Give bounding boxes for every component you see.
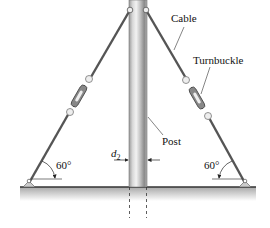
cable-label: Cable [171,13,197,24]
left-anchor [23,179,35,187]
diameter-label: d2 [111,148,121,162]
post-label: Post [162,136,181,147]
angle-left-label: 60° [56,160,71,171]
post [129,0,147,218]
left-turnbuckle [67,76,93,116]
cable-leader [174,27,184,50]
right-turnbuckle [183,77,212,120]
post-leader [148,117,163,135]
angle-right-label: 60° [204,160,219,171]
turnbuckle-label: Turnbuckle [193,55,243,66]
cable-post-diagram [0,0,270,228]
ground [20,187,256,201]
turnbuckle-leader [201,67,210,94]
right-anchor [239,179,251,187]
